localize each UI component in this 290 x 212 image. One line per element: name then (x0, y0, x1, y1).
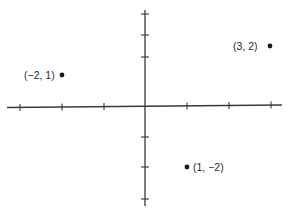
point-marker (268, 44, 273, 49)
point-label: (−2, 1) (24, 69, 55, 81)
point-label: (3, 2) (233, 40, 258, 52)
point-neg2-1: (−2, 1) (24, 69, 64, 81)
point-marker (60, 73, 65, 78)
point-marker (185, 165, 190, 170)
point-3-2: (3, 2) (233, 40, 272, 52)
coordinate-plane: (−2, 1) (3, 2) (1, −2) (0, 0, 290, 212)
point-label: (1, −2) (193, 161, 224, 173)
point-1-neg2: (1, −2) (185, 161, 224, 173)
